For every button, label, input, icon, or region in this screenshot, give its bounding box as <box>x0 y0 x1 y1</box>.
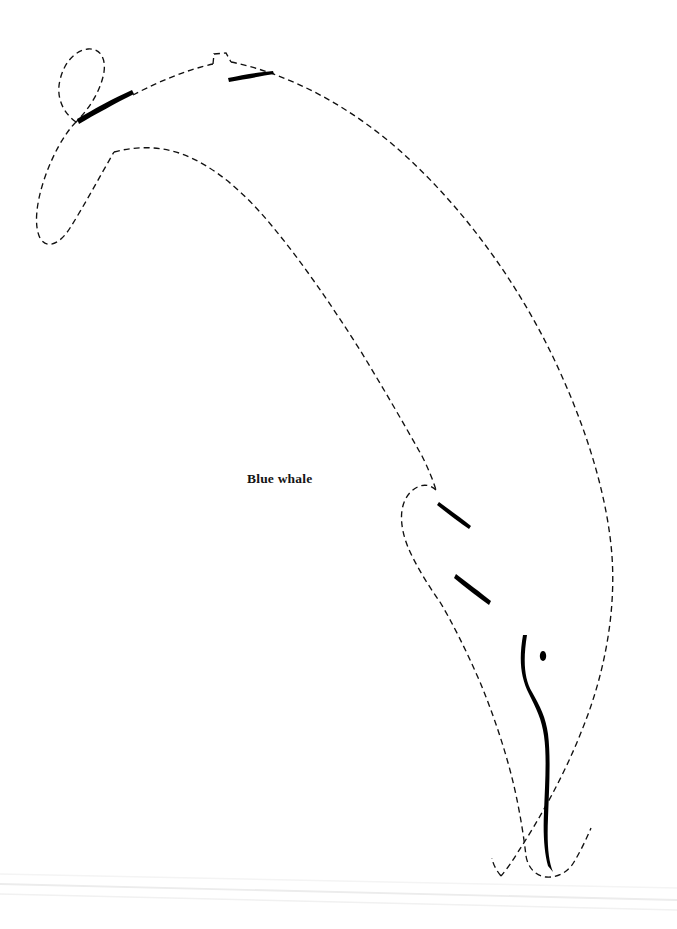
flipper-stroke-upper <box>437 502 471 529</box>
solid-accent-group <box>77 71 553 872</box>
whale-outline-group <box>37 49 613 877</box>
scan-artifact-group <box>0 874 677 910</box>
flipper-stroke-lower <box>454 574 491 605</box>
tail-stock-stroke <box>77 90 134 124</box>
eye <box>540 651 546 661</box>
dorsal-fin-stroke <box>228 71 274 82</box>
page-canvas: Blue whale <box>0 0 677 929</box>
mouth-line <box>521 635 553 872</box>
dorsal-fin <box>213 53 231 64</box>
head-lower-back-contour <box>492 858 501 876</box>
back-contour <box>231 62 613 876</box>
throat-contour <box>440 602 526 856</box>
blue-whale-illustration <box>0 0 677 929</box>
tail-fluke-lower-lobe <box>37 122 114 244</box>
back-contour-tail-to-dorsal <box>133 64 213 95</box>
pectoral-flipper <box>401 485 440 602</box>
species-label: Blue whale <box>247 471 312 487</box>
belly-contour <box>114 148 436 490</box>
snout-tip <box>526 828 591 877</box>
scan-hairline-3 <box>0 894 677 910</box>
